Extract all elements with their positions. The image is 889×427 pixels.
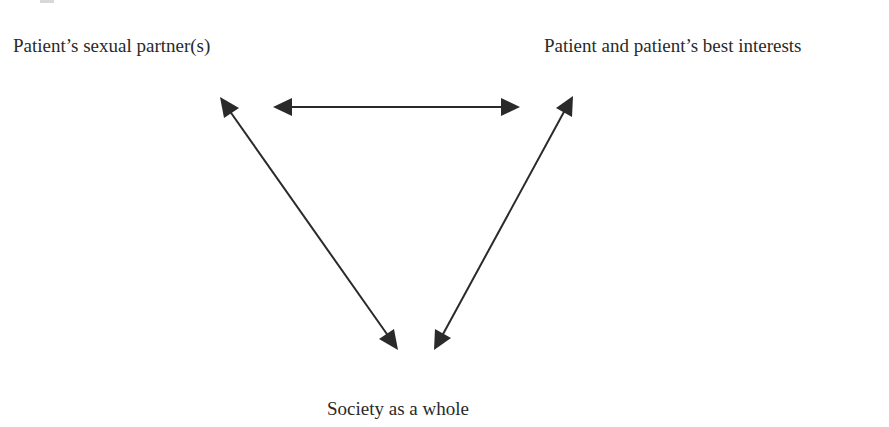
arrowhead-down-left-icon bbox=[434, 329, 451, 350]
arrowhead-right-icon bbox=[501, 98, 520, 116]
relationship-triangle bbox=[0, 0, 889, 427]
arrowhead-down-right-icon bbox=[379, 329, 398, 350]
arrow-patient-society bbox=[434, 96, 573, 350]
arrowhead-up-right-icon bbox=[556, 96, 573, 117]
arrowhead-up-left-icon bbox=[220, 97, 239, 118]
arrow-partner-patient bbox=[273, 98, 520, 116]
arrow-partner-society bbox=[220, 97, 398, 350]
arrowhead-left-icon bbox=[273, 98, 292, 116]
